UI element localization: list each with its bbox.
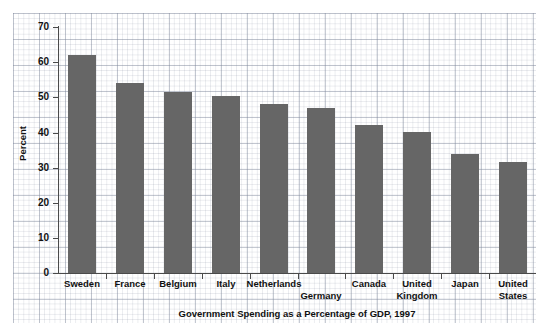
x-label-sweden: Sweden: [58, 278, 106, 289]
x-axis-line: [58, 273, 536, 274]
bar-sweden: [68, 55, 96, 273]
x-label-united-states-line1: United: [489, 278, 537, 289]
y-tick-40: [53, 133, 58, 134]
x-label-japan: Japan: [441, 278, 489, 289]
bar-belgium: [164, 92, 192, 273]
y-tick-label-70: 70: [5, 22, 49, 32]
bar-france: [116, 83, 144, 273]
bar-united-states: [499, 162, 527, 273]
y-tick-label-20-wrap: 20: [0, 198, 49, 208]
y-tick-20: [53, 203, 58, 204]
y-tick-label-60: 60: [5, 57, 49, 67]
chart-figure: 70 60 50 40 30 20 10 0 Percent: [0, 0, 549, 336]
y-tick-0: [53, 273, 58, 274]
y-tick-label-20: 20: [5, 198, 49, 208]
y-tick-label-0-wrap: 0: [0, 268, 49, 278]
y-tick-10: [53, 238, 58, 239]
bar-united-kingdom: [403, 132, 431, 273]
plot-area: 70 60 50 40 30 20 10 0 Percent: [0, 0, 549, 336]
x-label-france: France: [106, 278, 154, 289]
y-tick-label-10-wrap: 10: [0, 233, 49, 243]
x-label-united-states-line2: States: [489, 290, 537, 301]
y-tick-60: [53, 62, 58, 63]
y-tick-label-60-wrap: 60: [0, 57, 49, 67]
bar-italy: [212, 96, 240, 273]
y-tick-30: [53, 168, 58, 169]
bar-canada: [355, 125, 383, 273]
bar-germany: [307, 108, 335, 273]
bar-netherlands: [260, 104, 288, 273]
x-label-canada: Canada: [345, 278, 393, 289]
x-label-germany: Germany: [297, 290, 345, 301]
y-tick-50: [53, 97, 58, 98]
y-tick-label-50-wrap: 50: [0, 92, 49, 102]
bar-japan: [451, 154, 479, 273]
y-tick-label-10: 10: [5, 233, 49, 243]
y-axis-line: [58, 26, 59, 274]
x-label-belgium: Belgium: [154, 278, 202, 289]
y-axis-title: Percent: [17, 114, 28, 174]
chart-caption: Government Spending as a Percentage of G…: [58, 308, 536, 319]
x-label-united-kingdom-line2: Kingdom: [393, 290, 441, 301]
x-label-netherlands: Netherlands: [243, 278, 305, 289]
y-tick-label-50: 50: [5, 92, 49, 102]
y-tick-70: [53, 27, 58, 28]
y-tick-label-0: 0: [5, 268, 49, 278]
x-label-united-kingdom-line1: United: [393, 278, 441, 289]
y-tick-label-70-wrap: 70: [0, 22, 49, 32]
